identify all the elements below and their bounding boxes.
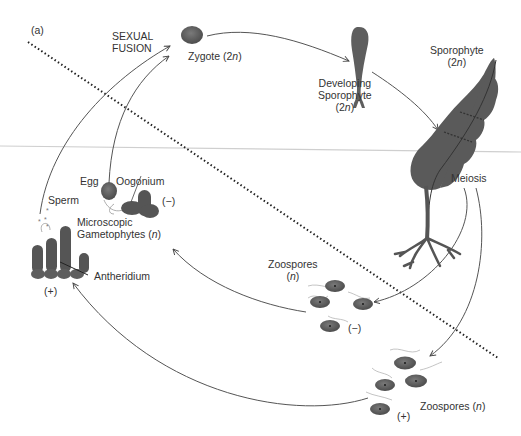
developing-sporophyte-label: Developing Sporophyte (2n) [318,77,372,113]
panel-label: (a) [31,24,44,36]
svg-text:*: * [38,218,41,225]
female-mating-type-label: (−) [162,195,175,207]
zygote-text: Zygote (2 [188,50,232,62]
zoospores-minus-line-1: Zoospores [268,258,318,270]
developing-line-3: (2n) [318,101,372,113]
arrow-egg-to-fusion [109,56,169,183]
sexual-fusion-line-2: FUSION [112,42,153,54]
developing-ploidy-open: (2 [336,101,345,113]
sporophyte-label: Sporophyte (2n) [430,44,484,68]
zygote-label: Zygote (2n) [188,50,242,62]
zoospores-minus-group [308,280,373,332]
zoospores-minus-label: Zoospores (n) [268,258,318,282]
svg-text:*: * [46,207,49,214]
sexual-fusion-label: SEXUAL FUSION [112,30,153,54]
microscopic-line-2: Gametophytes (n) [77,228,161,240]
zoospore [320,316,348,332]
microscopic-close: ) [158,228,162,240]
sporophyte-ploidy-close: ) [463,56,467,68]
zoospore [372,368,395,391]
developing-line-2: Sporophyte [318,89,372,101]
antheridium-label: Antheridium [94,270,150,282]
sperm-label: Sperm [48,194,79,206]
zoospore [390,349,420,369]
oogonium-label: Oogonium [116,175,164,187]
sporophyte-ploidy-open: (2 [448,56,457,68]
zoospores-minus-close: ) [296,270,300,282]
microscopic-line-1: Microscopic [77,216,161,228]
microscopic-gametophytes-label: Microscopic Gametophytes (n) [77,216,161,240]
zoospores-minus-line-2: (n) [268,270,318,282]
male-mating-type-label: (+) [44,285,57,297]
sporophyte-kelp [395,58,498,268]
developing-ploidy-close: ) [351,101,355,113]
sexual-fusion-line-1: SEXUAL [112,30,153,42]
egg-cell [101,182,117,200]
zygote-cell [181,26,203,44]
meiosis-label: Meiosis [451,172,487,184]
zoospores-plus-mating-type: (+) [397,410,410,422]
arrow-developing-to-sporophyte [372,72,438,130]
svg-text:*: * [46,223,49,230]
microscopic-text: Gametophytes ( [77,228,152,240]
sporophyte-line-2: (2n) [430,56,484,68]
zoospores-plus-text: Zoospores ( [420,400,476,412]
egg-label: Egg [80,175,99,187]
zoospore [348,292,373,310]
developing-line-1: Developing [318,77,372,89]
zoospore [366,392,392,415]
sporophyte-line-1: Sporophyte [430,44,484,56]
zoospores-plus-close: ) [482,400,486,412]
zoospore [308,296,330,308]
zoospores-plus-label: Zoospores (n) [420,400,485,412]
zygote-close: ) [238,50,242,62]
zoospores-minus-mating-type: (−) [348,322,361,334]
svg-text:*: * [44,216,47,223]
